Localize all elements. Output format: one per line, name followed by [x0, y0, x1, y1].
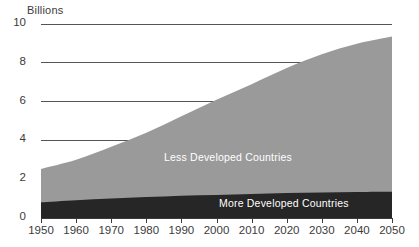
stacked-areas — [41, 37, 392, 218]
x-tick-label-2050: 2050 — [372, 224, 412, 236]
chart-svg — [41, 24, 392, 218]
y-tick-label-6: 6 — [0, 94, 26, 106]
x-tick-label-1960: 1960 — [56, 224, 96, 236]
y-tick-label-10: 10 — [0, 16, 26, 28]
y-tick-label-8: 8 — [0, 55, 26, 67]
y-tick-label-2: 2 — [0, 171, 26, 183]
population-area-chart: Billions 1086420 Less Developed Countrie… — [0, 0, 419, 247]
y-tick-label-0: 0 — [0, 210, 26, 222]
y-axis-title: Billions — [27, 4, 63, 16]
x-tick-label-1980: 1980 — [126, 224, 166, 236]
y-tick-label-4: 4 — [0, 132, 26, 144]
x-tick-label-1950: 1950 — [21, 224, 61, 236]
series-label-less-developed-countries: Less Developed Countries — [164, 151, 292, 163]
series-label-more-developed-countries: More Developed Countries — [219, 197, 349, 209]
x-tick-label-2020: 2020 — [267, 224, 307, 236]
x-tick-label-1990: 1990 — [161, 224, 201, 236]
x-tick-label-1970: 1970 — [91, 224, 131, 236]
x-tick-label-2030: 2030 — [302, 224, 342, 236]
area-less-developed-countries — [41, 37, 392, 218]
plot-area — [41, 24, 392, 218]
x-tick-label-2010: 2010 — [232, 224, 272, 236]
x-tick-label-2000: 2000 — [197, 224, 237, 236]
x-tick-label-2040: 2040 — [337, 224, 377, 236]
